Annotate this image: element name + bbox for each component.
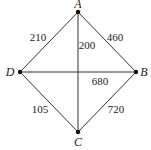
node-label-D: D bbox=[6, 66, 15, 78]
node-label-C: C bbox=[74, 136, 82, 148]
graph-edges bbox=[0, 0, 151, 150]
edge-weight-AD: 210 bbox=[30, 32, 47, 43]
edge-weight-BC: 720 bbox=[108, 104, 125, 115]
node-label-A: A bbox=[74, 0, 81, 10]
node-D bbox=[18, 70, 22, 74]
edge-AD bbox=[20, 12, 78, 72]
node-label-B: B bbox=[140, 66, 147, 78]
edge-DC bbox=[20, 72, 78, 132]
graph-diagram: 210460200680105720ABCD bbox=[0, 0, 151, 150]
node-C bbox=[76, 130, 80, 134]
edge-weight-AB: 460 bbox=[107, 32, 124, 43]
edge-weight-DB: 680 bbox=[92, 76, 109, 87]
node-B bbox=[134, 70, 138, 74]
edge-weight-AC: 200 bbox=[79, 40, 96, 51]
edge-weight-DC: 105 bbox=[32, 104, 49, 115]
